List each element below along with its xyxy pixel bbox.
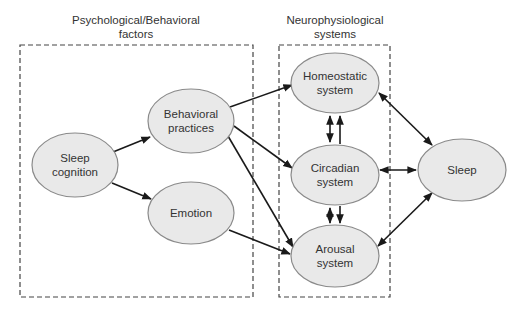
label-line: Homeostatic bbox=[303, 69, 367, 83]
label-circadian: Circadian system bbox=[291, 150, 379, 200]
edge-behavioral-homeostatic bbox=[230, 85, 292, 107]
edge-homeostatic-sleep-bi bbox=[379, 93, 432, 145]
label-line: system bbox=[317, 175, 353, 189]
label-line: Circadian bbox=[311, 161, 360, 175]
label-behavioral-practices: Behavioral practices bbox=[148, 96, 234, 146]
label-sleep-cognition: Sleep cognition bbox=[32, 140, 118, 190]
label-line: system bbox=[317, 83, 353, 97]
psych-group-label: Psychological/Behavioral factors bbox=[36, 13, 236, 41]
label-homeostatic: Homeostatic system bbox=[291, 58, 379, 108]
label-line: Sleep bbox=[60, 151, 89, 165]
neuro-group-label: Neurophysiological systems bbox=[275, 13, 395, 41]
neuro-label-line2: systems bbox=[275, 27, 395, 41]
edge-behavioral-arousal bbox=[228, 136, 293, 247]
label-line: Arousal bbox=[316, 242, 355, 256]
label-arousal: Arousal system bbox=[291, 231, 379, 281]
psych-label-line1: Psychological/Behavioral bbox=[36, 13, 236, 27]
label-line: practices bbox=[168, 121, 214, 135]
label-line: Emotion bbox=[170, 206, 212, 220]
label-line: system bbox=[317, 256, 353, 270]
label-emotion: Emotion bbox=[148, 188, 234, 238]
psych-label-line2: factors bbox=[36, 27, 236, 41]
label-line: cognition bbox=[52, 165, 98, 179]
label-line: Behavioral bbox=[164, 107, 218, 121]
edge-arousal-sleep-bi bbox=[378, 193, 432, 246]
edge-cognition-behavioral bbox=[113, 137, 150, 152]
neuro-label-line1: Neurophysiological bbox=[275, 13, 395, 27]
label-sleep: Sleep bbox=[418, 145, 506, 195]
label-line: Sleep bbox=[447, 163, 476, 177]
edge-emotion-arousal bbox=[229, 230, 290, 254]
